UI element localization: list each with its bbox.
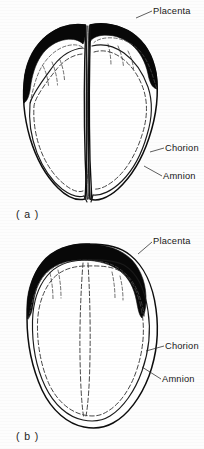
leader-line-amnion bbox=[144, 166, 162, 176]
leader-line-placenta-b bbox=[138, 242, 152, 254]
label-amnion-b: Amnion bbox=[162, 374, 195, 384]
leader-line-chorion bbox=[150, 148, 164, 152]
label-placenta-b: Placenta bbox=[153, 236, 191, 246]
label-chorion: Chorion bbox=[165, 143, 199, 153]
panel-b-monochorionic: Placenta Chorion Amnion ( b ) bbox=[0, 228, 204, 449]
caption-panel-a: ( a ) bbox=[16, 208, 39, 220]
twin-placentation-figure: Placenta Chorion Amnion ( a ) bbox=[0, 0, 204, 449]
label-amnion: Amnion bbox=[163, 171, 196, 181]
label-chorion-b: Chorion bbox=[165, 341, 199, 351]
panel-a-dichorionic: Placenta Chorion Amnion ( a ) bbox=[0, 0, 204, 228]
caption-panel-b: ( b ) bbox=[16, 430, 39, 442]
leader-line-placenta bbox=[136, 11, 152, 18]
label-placenta: Placenta bbox=[153, 6, 191, 16]
